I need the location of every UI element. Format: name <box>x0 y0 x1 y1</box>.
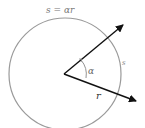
arc-length-label: s <box>122 59 126 67</box>
radius-label: r <box>96 90 102 101</box>
formula-label: s = αr <box>46 5 75 15</box>
angle-label: α <box>88 66 94 76</box>
arc-length-diagram: s = αr α r s <box>0 0 145 128</box>
angle-arc-icon <box>81 60 86 78</box>
